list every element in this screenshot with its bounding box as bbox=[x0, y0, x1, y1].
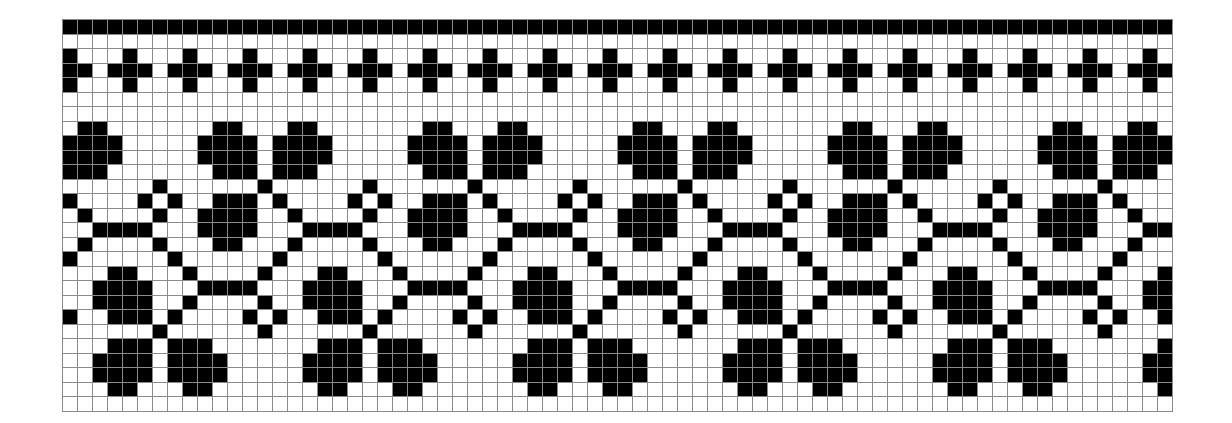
empty-stitch-cell bbox=[93, 78, 108, 93]
empty-stitch-cell bbox=[1113, 325, 1128, 340]
empty-stitch-cell bbox=[813, 397, 828, 412]
filled-stitch-cell bbox=[798, 354, 813, 369]
empty-stitch-cell bbox=[678, 368, 693, 383]
empty-stitch-cell bbox=[558, 151, 573, 166]
empty-stitch-cell bbox=[978, 180, 993, 195]
empty-stitch-cell bbox=[858, 49, 873, 64]
empty-stitch-cell bbox=[1053, 78, 1068, 93]
empty-stitch-cell bbox=[348, 383, 363, 398]
empty-stitch-cell bbox=[1128, 223, 1143, 238]
empty-stitch-cell bbox=[1008, 223, 1023, 238]
empty-stitch-cell bbox=[1008, 49, 1023, 64]
filled-stitch-cell bbox=[1083, 20, 1098, 35]
empty-stitch-cell bbox=[1023, 310, 1038, 325]
empty-stitch-cell bbox=[1113, 354, 1128, 369]
empty-stitch-cell bbox=[183, 325, 198, 340]
filled-stitch-cell bbox=[933, 368, 948, 383]
filled-stitch-cell bbox=[423, 136, 438, 151]
filled-stitch-cell bbox=[303, 136, 318, 151]
filled-stitch-cell bbox=[663, 20, 678, 35]
empty-stitch-cell bbox=[633, 107, 648, 122]
filled-stitch-cell bbox=[528, 354, 543, 369]
empty-stitch-cell bbox=[63, 281, 78, 296]
filled-stitch-cell bbox=[1038, 136, 1053, 151]
filled-stitch-cell bbox=[558, 310, 573, 325]
filled-stitch-cell bbox=[123, 64, 138, 79]
empty-stitch-cell bbox=[138, 209, 153, 224]
empty-stitch-cell bbox=[603, 151, 618, 166]
empty-stitch-cell bbox=[1143, 339, 1158, 354]
empty-stitch-cell bbox=[303, 93, 318, 108]
filled-stitch-cell bbox=[588, 354, 603, 369]
filled-stitch-cell bbox=[978, 368, 993, 383]
empty-stitch-cell bbox=[483, 107, 498, 122]
empty-stitch-cell bbox=[648, 49, 663, 64]
empty-stitch-cell bbox=[483, 267, 498, 282]
filled-stitch-cell bbox=[483, 49, 498, 64]
filled-stitch-cell bbox=[423, 122, 438, 137]
filled-stitch-cell bbox=[903, 78, 918, 93]
filled-stitch-cell bbox=[78, 122, 93, 137]
empty-stitch-cell bbox=[708, 49, 723, 64]
empty-stitch-cell bbox=[393, 281, 408, 296]
empty-stitch-cell bbox=[333, 49, 348, 64]
empty-stitch-cell bbox=[783, 107, 798, 122]
empty-stitch-cell bbox=[798, 93, 813, 108]
empty-stitch-cell bbox=[318, 238, 333, 253]
empty-stitch-cell bbox=[168, 35, 183, 50]
filled-stitch-cell bbox=[423, 78, 438, 93]
empty-stitch-cell bbox=[723, 180, 738, 195]
empty-stitch-cell bbox=[453, 252, 468, 267]
empty-stitch-cell bbox=[1083, 368, 1098, 383]
empty-stitch-cell bbox=[198, 49, 213, 64]
empty-stitch-cell bbox=[648, 107, 663, 122]
filled-stitch-cell bbox=[858, 64, 873, 79]
empty-stitch-cell bbox=[843, 397, 858, 412]
filled-stitch-cell bbox=[618, 223, 633, 238]
empty-stitch-cell bbox=[1098, 107, 1113, 122]
filled-stitch-cell bbox=[288, 20, 303, 35]
empty-stitch-cell bbox=[138, 397, 153, 412]
empty-stitch-cell bbox=[393, 180, 408, 195]
empty-stitch-cell bbox=[618, 252, 633, 267]
empty-stitch-cell bbox=[378, 296, 393, 311]
empty-stitch-cell bbox=[213, 35, 228, 50]
filled-stitch-cell bbox=[1158, 310, 1173, 325]
empty-stitch-cell bbox=[348, 238, 363, 253]
empty-stitch-cell bbox=[378, 238, 393, 253]
empty-stitch-cell bbox=[93, 49, 108, 64]
empty-stitch-cell bbox=[453, 325, 468, 340]
empty-stitch-cell bbox=[1158, 107, 1173, 122]
empty-stitch-cell bbox=[108, 325, 123, 340]
empty-stitch-cell bbox=[393, 194, 408, 209]
empty-stitch-cell bbox=[348, 325, 363, 340]
empty-stitch-cell bbox=[1143, 180, 1158, 195]
empty-stitch-cell bbox=[693, 35, 708, 50]
filled-stitch-cell bbox=[258, 20, 273, 35]
empty-stitch-cell bbox=[468, 354, 483, 369]
empty-stitch-cell bbox=[978, 151, 993, 166]
empty-stitch-cell bbox=[318, 209, 333, 224]
empty-stitch-cell bbox=[438, 252, 453, 267]
empty-stitch-cell bbox=[918, 383, 933, 398]
filled-stitch-cell bbox=[228, 165, 243, 180]
empty-stitch-cell bbox=[168, 325, 183, 340]
empty-stitch-cell bbox=[78, 354, 93, 369]
filled-stitch-cell bbox=[828, 223, 843, 238]
filled-stitch-cell bbox=[1008, 354, 1023, 369]
empty-stitch-cell bbox=[1038, 194, 1053, 209]
empty-stitch-cell bbox=[933, 49, 948, 64]
filled-stitch-cell bbox=[1158, 339, 1173, 354]
filled-stitch-cell bbox=[918, 209, 933, 224]
empty-stitch-cell bbox=[1038, 180, 1053, 195]
filled-stitch-cell bbox=[243, 49, 258, 64]
empty-stitch-cell bbox=[813, 238, 828, 253]
empty-stitch-cell bbox=[393, 325, 408, 340]
filled-stitch-cell bbox=[213, 136, 228, 151]
empty-stitch-cell bbox=[903, 35, 918, 50]
empty-stitch-cell bbox=[378, 49, 393, 64]
filled-stitch-cell bbox=[108, 310, 123, 325]
empty-stitch-cell bbox=[1128, 383, 1143, 398]
empty-stitch-cell bbox=[483, 209, 498, 224]
filled-stitch-cell bbox=[258, 64, 273, 79]
